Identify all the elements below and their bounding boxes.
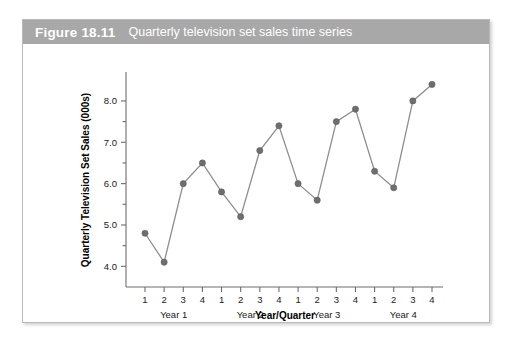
data-point xyxy=(333,119,339,125)
x-group-label: Year 1 xyxy=(160,309,187,320)
y-tick-label: 5.0 xyxy=(104,219,117,230)
x-group-label: Year 4 xyxy=(390,309,417,320)
x-tick-label: 2 xyxy=(315,294,320,305)
data-point xyxy=(391,185,397,191)
x-tick-label: 3 xyxy=(181,294,186,305)
x-axis-title: Year/Quarter xyxy=(255,310,315,321)
y-tick-label: 4.0 xyxy=(104,261,117,272)
x-tick-label: 1 xyxy=(219,294,224,305)
x-tick-label: 3 xyxy=(334,294,339,305)
y-tick-label: 8.0 xyxy=(104,95,117,106)
x-tick-label: 1 xyxy=(295,294,300,305)
figure-number-label: Figure 18.11 xyxy=(35,25,115,40)
data-series-line xyxy=(145,84,432,262)
data-series-markers xyxy=(142,81,435,265)
y-axis-ticks xyxy=(121,101,126,266)
x-axis-tick-labels: 1234123412341234 xyxy=(142,294,434,305)
y-axis-tick-labels: 4.05.06.07.08.0 xyxy=(104,95,117,271)
data-point xyxy=(257,147,263,153)
y-tick-label: 7.0 xyxy=(104,137,117,148)
data-point xyxy=(429,81,435,87)
data-point xyxy=(218,189,224,195)
figure-caption: Quarterly television set sales time seri… xyxy=(128,25,352,39)
y-axis-title: Quarterly Television Set Sales (000s) xyxy=(80,93,91,267)
data-point xyxy=(238,214,244,220)
x-tick-label: 1 xyxy=(372,294,377,305)
x-group-label: Year 3 xyxy=(313,309,340,320)
data-point xyxy=(142,230,148,236)
x-tick-label: 2 xyxy=(161,294,166,305)
data-point xyxy=(352,106,358,112)
x-tick-label: 4 xyxy=(276,294,281,305)
x-tick-label: 3 xyxy=(410,294,415,305)
figure-header: Figure 18.11 Quarterly television set sa… xyxy=(23,20,489,44)
x-tick-label: 2 xyxy=(391,294,396,305)
data-point xyxy=(276,123,282,129)
data-point xyxy=(180,181,186,187)
x-tick-label: 4 xyxy=(200,294,205,305)
data-point xyxy=(199,160,205,166)
x-tick-label: 4 xyxy=(353,294,358,305)
y-tick-label: 6.0 xyxy=(104,178,117,189)
data-point xyxy=(161,259,167,265)
data-point xyxy=(372,168,378,174)
x-tick-label: 4 xyxy=(429,294,434,305)
data-point xyxy=(314,197,320,203)
chart-plot-area: 4.05.06.07.08.0 1234123412341234 Year 1Y… xyxy=(23,44,489,324)
x-tick-label: 2 xyxy=(238,294,243,305)
x-axis-ticks xyxy=(145,287,432,292)
x-tick-label: 1 xyxy=(142,294,147,305)
line-chart: 4.05.06.07.08.0 1234123412341234 Year 1Y… xyxy=(23,44,491,324)
data-point xyxy=(410,98,416,104)
data-point xyxy=(295,181,301,187)
figure-card: Figure 18.11 Quarterly television set sa… xyxy=(22,19,490,323)
x-tick-label: 3 xyxy=(257,294,262,305)
